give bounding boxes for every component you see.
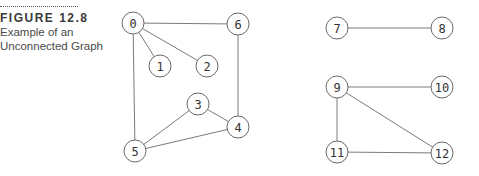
- edge-0-6: [133, 23, 238, 24]
- node-4: 4: [227, 116, 249, 138]
- node-6: 6: [227, 13, 249, 35]
- node-1: 1: [149, 55, 171, 77]
- node-9: 9: [326, 76, 348, 98]
- node-11: 11: [326, 141, 348, 163]
- node-label: 11: [330, 146, 344, 160]
- edge-11-12: [337, 152, 442, 153]
- node-label: 9: [333, 81, 340, 95]
- graph-diagram: 0123456789101112: [0, 0, 479, 176]
- edges-layer: [133, 23, 442, 153]
- node-7: 7: [326, 17, 348, 39]
- node-label: 5: [131, 145, 138, 159]
- node-label: 8: [438, 22, 445, 36]
- node-0: 0: [122, 12, 144, 34]
- node-label: 3: [194, 98, 201, 112]
- node-label: 10: [435, 81, 449, 95]
- node-label: 7: [333, 22, 340, 36]
- node-label: 1: [156, 60, 163, 74]
- node-label: 0: [129, 17, 136, 31]
- edge-0-2: [133, 23, 207, 66]
- node-label: 2: [203, 60, 210, 74]
- node-label: 6: [234, 18, 241, 32]
- node-2: 2: [196, 55, 218, 77]
- node-12: 12: [431, 142, 453, 164]
- node-8: 8: [431, 17, 453, 39]
- node-3: 3: [187, 93, 209, 115]
- node-label: 12: [435, 147, 449, 161]
- nodes-layer: 0123456789101112: [122, 12, 453, 164]
- edge-0-5: [133, 23, 135, 151]
- node-5: 5: [124, 140, 146, 162]
- node-10: 10: [431, 76, 453, 98]
- node-label: 4: [234, 121, 241, 135]
- edge-9-12: [337, 87, 442, 153]
